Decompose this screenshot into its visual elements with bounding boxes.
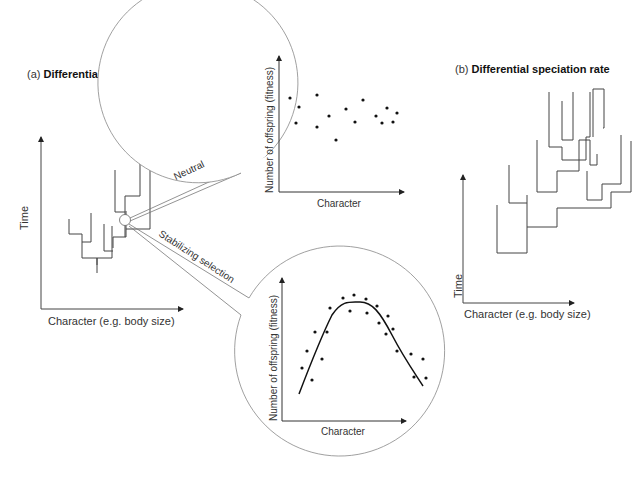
data-point [305, 349, 308, 352]
data-point [412, 375, 415, 378]
stabilizing-inset-x-label: Character [321, 426, 365, 437]
data-point [325, 330, 328, 333]
data-point [315, 93, 318, 96]
neutral-inset-y-label: Number of offspring (fitness) [264, 67, 275, 193]
diagram-canvas [0, 0, 635, 477]
data-point [365, 311, 368, 314]
neutral-inset-x-label: Character [317, 198, 361, 209]
data-point [297, 105, 300, 108]
data-point [391, 120, 394, 123]
data-point [294, 121, 297, 124]
stabilizing-inset-circle [235, 246, 445, 456]
data-point [315, 125, 318, 128]
data-point [374, 114, 377, 117]
magnify-node-icon [120, 215, 131, 226]
stabilizing-callout-line-top [129, 224, 249, 298]
data-point [327, 114, 330, 117]
data-point [334, 138, 337, 141]
panel-a-y-label: Time [18, 206, 30, 230]
data-point [353, 120, 356, 123]
data-point [391, 327, 394, 330]
data-point [395, 349, 398, 352]
data-point [385, 106, 388, 109]
data-point [348, 309, 351, 312]
data-point [364, 297, 367, 300]
data-point [352, 293, 355, 296]
data-point [375, 304, 378, 307]
panel-a-x-label: Character (e.g. body size) [48, 315, 175, 327]
data-point [384, 332, 387, 335]
data-point [344, 107, 347, 110]
data-point [313, 330, 316, 333]
neutral-scatter-points [288, 93, 398, 141]
data-point [409, 352, 412, 355]
data-point [328, 306, 331, 309]
data-point [380, 121, 383, 124]
data-point [300, 366, 303, 369]
data-point [341, 296, 344, 299]
stabilizing-inset-y-label: Number of offspring (fitness) [268, 295, 279, 421]
data-point [310, 378, 313, 381]
data-point [424, 376, 427, 379]
data-point [395, 111, 398, 114]
panel-b-y-label: Time [452, 274, 464, 298]
panel-b-x-label: Character (e.g. body size) [464, 308, 591, 320]
panel-b-phylogeny [497, 89, 631, 253]
data-point [288, 96, 291, 99]
data-point [361, 98, 364, 101]
data-point [377, 321, 380, 324]
data-point [386, 314, 389, 317]
data-point [320, 357, 323, 360]
panel-b-axes [463, 175, 574, 303]
data-point [421, 357, 424, 360]
